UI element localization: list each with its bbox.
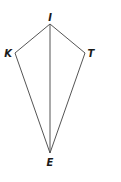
- edge-it: [50, 24, 85, 53]
- vertex-label-e: E: [47, 157, 54, 168]
- vertex-label-i: I: [48, 12, 52, 23]
- edge-ik: [15, 24, 50, 53]
- vertex-label-t: T: [88, 48, 96, 59]
- edge-te: [50, 53, 85, 153]
- kite-diagram: I K T E: [0, 0, 121, 182]
- vertex-label-k: K: [4, 48, 13, 59]
- edge-ke: [15, 53, 50, 153]
